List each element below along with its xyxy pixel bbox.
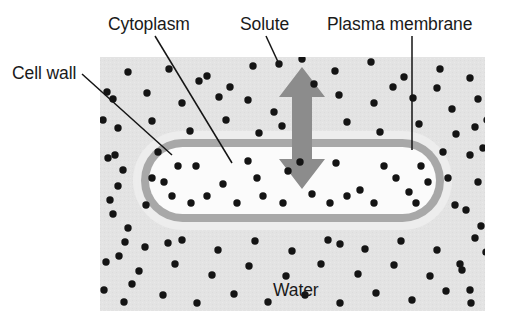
- solute-dot: [215, 93, 222, 100]
- solute-dot: [195, 77, 202, 84]
- solute-dot: [114, 182, 121, 189]
- solute-dot: [203, 192, 210, 199]
- solute-dot: [121, 238, 128, 245]
- solute-dot: [439, 148, 446, 155]
- solute-dot: [219, 180, 226, 187]
- solute-dot: [245, 262, 252, 269]
- solute-dot: [409, 94, 416, 101]
- solute-dot: [115, 252, 122, 259]
- solute-dot: [102, 258, 109, 265]
- solute-dot: [471, 123, 478, 130]
- solute-dot: [109, 210, 116, 217]
- solute-dot: [296, 158, 303, 165]
- solute-dot: [376, 128, 383, 135]
- solute-dot: [251, 237, 258, 244]
- solute-dot: [226, 83, 233, 90]
- solute-dot: [452, 130, 459, 137]
- solute-dot: [253, 174, 260, 181]
- solute-dot: [135, 267, 142, 274]
- solute-dot: [171, 260, 178, 267]
- solute-dot: [367, 58, 374, 65]
- solute-dot: [114, 124, 121, 131]
- solute-dot: [120, 298, 127, 305]
- solute-dot: [100, 286, 107, 293]
- solute-dot: [474, 95, 481, 102]
- solute-dot: [466, 74, 473, 81]
- solute-dot: [279, 199, 286, 206]
- solute-dot: [405, 188, 412, 195]
- solute-dot: [259, 192, 266, 199]
- solute-dot: [380, 162, 387, 169]
- solute-dot: [111, 151, 118, 158]
- solute-dot: [187, 199, 194, 206]
- solute-dot: [444, 174, 451, 181]
- solute-dot: [148, 117, 155, 124]
- solute-dot: [408, 296, 415, 303]
- solute-dot: [308, 190, 315, 197]
- solute-dot: [331, 67, 338, 74]
- solute-dot: [370, 199, 377, 206]
- solute-dot: [160, 178, 167, 185]
- solute-dot: [332, 159, 339, 166]
- solute-dot: [462, 206, 469, 213]
- solute-dot: [471, 234, 478, 241]
- solute-dot: [343, 118, 350, 125]
- solute-dot: [255, 129, 262, 136]
- solute-dot: [168, 192, 175, 199]
- solute-dot: [390, 261, 397, 268]
- solute-dot: [397, 237, 404, 244]
- solute-dot: [288, 247, 295, 254]
- solute-dot: [143, 89, 150, 96]
- solute-dot: [343, 192, 350, 199]
- solute-dot: [124, 224, 131, 231]
- solute-dot: [336, 240, 343, 247]
- solute-dot: [244, 96, 251, 103]
- label-water: Water: [273, 280, 319, 300]
- solute-dot: [417, 162, 424, 169]
- label-solute: Solute: [240, 14, 289, 34]
- solute-dot: [159, 291, 166, 298]
- solute-dot: [244, 157, 251, 164]
- solute-dot: [106, 196, 113, 203]
- solute-dot: [467, 299, 474, 306]
- solute-dot: [356, 186, 363, 193]
- solute-dot: [154, 148, 161, 155]
- solute-dot: [451, 201, 458, 208]
- solute-dot: [208, 271, 215, 278]
- solute-dot: [466, 286, 473, 293]
- solute-dot: [222, 116, 229, 123]
- solute-dot: [264, 298, 271, 305]
- solute-dot: [141, 243, 148, 250]
- solute-dot: [448, 105, 455, 112]
- solute-dot: [203, 72, 210, 79]
- solute-dot: [119, 166, 126, 173]
- solute-dot: [230, 290, 237, 297]
- solute-dot: [324, 236, 331, 243]
- diagram-canvas: Cytoplasm Solute Plasma membrane Cell wa…: [0, 0, 506, 324]
- osmosis-diagram: Cytoplasm Solute Plasma membrane Cell wa…: [0, 0, 506, 324]
- solute-dot: [192, 162, 199, 169]
- solute-dot: [142, 201, 149, 208]
- solute-dot: [128, 280, 135, 287]
- solute-dot: [178, 236, 185, 243]
- solute-dot: [99, 116, 106, 123]
- solute-dot: [436, 65, 443, 72]
- solute-dot: [165, 65, 172, 72]
- solute-dot: [389, 83, 396, 90]
- solute-dot: [412, 199, 419, 206]
- solute-dot: [474, 178, 481, 185]
- solute-dot: [466, 151, 473, 158]
- solute-dot: [186, 127, 193, 134]
- solute-dot: [317, 260, 324, 267]
- solute-dot: [370, 99, 377, 106]
- solute-dot: [124, 68, 131, 75]
- solute-dot: [249, 62, 256, 69]
- solute-dot: [148, 174, 155, 181]
- solute-dot: [361, 245, 368, 252]
- solute-dot: [433, 246, 440, 253]
- solute-dot: [477, 222, 484, 229]
- solute-dot: [178, 99, 185, 106]
- solute-dot: [400, 73, 407, 80]
- solute-dot: [270, 108, 277, 115]
- solute-dot: [458, 266, 465, 273]
